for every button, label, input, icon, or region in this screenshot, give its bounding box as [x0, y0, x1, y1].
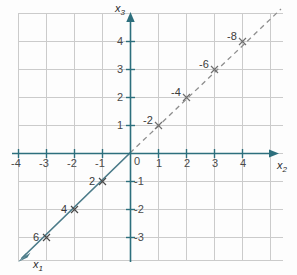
tick-label-x-3: 3 — [212, 158, 218, 169]
tick-label-y-4: 4 — [117, 36, 123, 47]
tick-label-y-1: 1 — [117, 120, 123, 131]
point-label-solid-4: 4 — [61, 204, 67, 215]
tick-label-x-1: 1 — [156, 158, 162, 169]
tick-label-y-3: 3 — [117, 64, 123, 75]
tick-label-origin: 0 — [134, 156, 140, 167]
cross-marks-dashed — [155, 38, 246, 129]
tick-label-y-minus-1: -1 — [134, 176, 144, 187]
cross-marks-solid — [43, 178, 106, 241]
point-label-solid-6: 6 — [33, 232, 39, 243]
point-label-dash-minus-4: -4 — [171, 87, 181, 98]
axis-label-x2: x2 — [277, 160, 287, 174]
point-label-dash-minus-2: -2 — [143, 115, 153, 126]
axis-label-x3: x3 — [115, 3, 125, 17]
tick-label-y-2: 2 — [117, 92, 123, 103]
tick-label-x-2: 2 — [184, 158, 190, 169]
point-label-solid-2: 2 — [89, 176, 95, 187]
point-label-dash-minus-6: -6 — [199, 59, 209, 70]
tick-label-x-minus-1: -1 — [95, 158, 105, 169]
tick-label-y-minus-3: -3 — [134, 232, 144, 243]
point-label-dash-minus-8: -8 — [227, 31, 237, 42]
axis-label-x1: x1 — [33, 259, 43, 273]
tick-label-x-minus-4: -4 — [11, 158, 21, 169]
coordinate-plot-figure: x3 x2 x1 0 -4 -3 -2 -1 1 2 3 4 4 3 2 1 -… — [0, 0, 297, 275]
tick-label-x-minus-2: -2 — [67, 158, 77, 169]
tick-label-x-minus-3: -3 — [39, 158, 49, 169]
tick-label-x-4: 4 — [240, 158, 246, 169]
tick-label-y-minus-2: -2 — [134, 204, 144, 215]
point-markers — [0, 0, 297, 275]
